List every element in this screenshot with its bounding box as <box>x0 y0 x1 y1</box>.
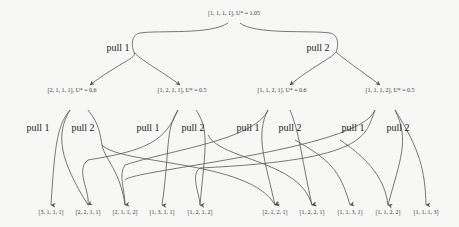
node-1112: [1, 1, 1, 2], U* = 0.5 <box>365 87 414 93</box>
node-1112-pull-1-label: pull 1 <box>341 122 364 133</box>
leaf-node: [1, 2, 1, 2] <box>188 209 213 215</box>
root-pull-2-label: pull 2 <box>306 42 329 53</box>
root-node: [1, 1, 1, 1], U* = 1.05 <box>208 10 260 16</box>
node-2111-pull-1-label: pull 1 <box>26 122 49 133</box>
leaf-node: [1, 1, 3, 1] <box>338 209 363 215</box>
node-1121: [1, 1, 2, 1], U* = 0.6 <box>257 87 306 93</box>
leaf-node: [1, 3, 1, 1] <box>150 209 175 215</box>
node-1211-pull-1-label: pull 1 <box>136 122 159 133</box>
leaf-node: [2, 1, 2, 1] <box>263 209 288 215</box>
pull-tree-diagram: [1, 1, 1, 1], U* = 1.05 pull 1 pull 2 [2… <box>0 0 459 227</box>
leaf-node: [1, 2, 2, 1] <box>300 209 325 215</box>
leaf-node: [2, 2, 1, 1] <box>76 209 101 215</box>
root-pull-1-label: pull 1 <box>106 42 129 53</box>
node-1211-pull-2-label: pull 2 <box>181 122 204 133</box>
node-1121-pull-1-label: pull 1 <box>236 122 259 133</box>
node-2111: [2, 1, 1, 1], U* = 0.6 <box>47 87 96 93</box>
leaf-node: [1, 1, 1, 3] <box>414 209 439 215</box>
node-1211: [1, 2, 1, 1], U* = 0.5 <box>157 87 206 93</box>
leaf-node: [2, 1, 1, 2] <box>113 209 138 215</box>
leaf-node: [3, 1, 1, 1] <box>39 209 64 215</box>
node-1121-pull-2-label: pull 2 <box>278 122 301 133</box>
tree-edges <box>0 0 459 227</box>
node-1112-pull-2-label: pull 2 <box>386 122 409 133</box>
leaf-node: [1, 1, 2, 2] <box>376 209 401 215</box>
node-2111-pull-2-label: pull 2 <box>71 122 94 133</box>
